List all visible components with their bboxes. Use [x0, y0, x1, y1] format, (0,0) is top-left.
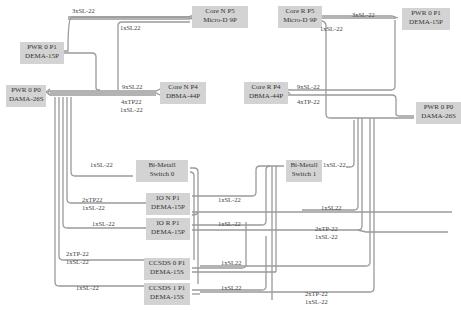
box-io-r-p1: IO R P1 DEMA-15P [146, 218, 190, 240]
wire-label: 9xSL22 [122, 83, 143, 91]
box-title: PWR 0 P0 [9, 86, 43, 95]
wire-bim1-verticals [272, 166, 276, 300]
wire-label: 1xSL22 [221, 259, 242, 267]
wire-label: 3xSL-22 [72, 7, 95, 15]
box-connector: DEMA-15P [149, 203, 187, 212]
wire-label: 1xSL-22 [92, 220, 115, 228]
box-pwr0-p0-right: PWR 0 P0 DAMA-26S [416, 102, 461, 124]
wire-coren-p5-pwr0p0 [118, 22, 190, 90]
wire-label: 1xSL-22 [120, 106, 143, 114]
box-title: PWR 0 P1 [23, 43, 61, 52]
wire-bim1-pwr0p0r [346, 120, 354, 167]
box-connector: Switch 1 [289, 170, 319, 179]
wire-label: 2xTP-22 [66, 250, 89, 258]
box-connector: Micro-D 9P [281, 16, 319, 25]
wire-label: 2xTP22 [82, 196, 103, 204]
wire-label: 2xTP-22 [315, 225, 338, 233]
box-pwr0-p1-left: PWR 0 P1 DEMA-15P [20, 42, 64, 64]
box-connector: DAMA-26S [419, 112, 458, 121]
box-title: IO R P1 [149, 219, 187, 228]
wire-label: 1xSL-22 [320, 25, 343, 33]
box-connector: DAMA-26S [9, 95, 43, 104]
wire-label: 1xSL22 [221, 284, 242, 292]
box-title: Core N P5 [195, 7, 245, 16]
wire-ionp1-right [192, 166, 284, 196]
box-bimetall-switch-0: Bi-Metall Switch 0 [136, 160, 188, 182]
box-connector: Switch 0 [139, 170, 185, 179]
box-ccsds1-p1: CCSDS 1 P1 DEMA-15S [144, 283, 190, 305]
box-connector: DEMA-15S [147, 268, 187, 277]
wire-label: 2xTP-22 [305, 290, 328, 298]
box-io-n-p1: IO N P1 DEMA-15P [146, 193, 190, 215]
box-connector: DBMA-44P [163, 92, 203, 101]
box-core-n-p4: Core N P4 DBMA-44P [160, 82, 206, 104]
wire-label: 1xSL-22 [218, 196, 241, 204]
wire-corer-p5-pwr0p0 [322, 21, 414, 118]
bundle-right-3 [200, 118, 370, 266]
wire-label: 1xSL-22 [323, 161, 346, 169]
box-connector: Micro-D 9P [195, 16, 245, 25]
wire-label: 1xSL-22 [315, 233, 338, 241]
box-core-r-p4: Core R P4 DBMA-44P [244, 82, 288, 104]
box-bimetall-switch-1: Bi-Metall Switch 1 [286, 160, 322, 182]
box-connector: DEMA-15P [149, 228, 187, 237]
wire-label: 1xSL-22 [76, 284, 99, 292]
box-title: PWR 0 P1 [405, 9, 447, 18]
wire-label: 1xSL-22 [82, 204, 105, 212]
box-connector: DEMA-15S [147, 293, 187, 302]
wire-label: 1xSL-22 [90, 161, 113, 169]
box-connector: DEMA-15P [405, 18, 447, 27]
wire-label: 1xSL22 [120, 24, 141, 32]
box-title: Core R P4 [247, 83, 285, 92]
box-title: PWR 0 P0 [419, 103, 458, 112]
wire-label: 1xSL-22 [218, 220, 241, 228]
wire-pwr0p1-corenp4 [64, 53, 100, 90]
box-connector: DBMA-44P [247, 92, 285, 101]
wire-label: 9xSL-22 [297, 83, 320, 91]
wire-label: 3xSL-22 [352, 11, 375, 19]
box-title: CCSDS 0 P1 [147, 259, 187, 268]
box-title: Bi-Metall [289, 161, 319, 170]
wire-label: 4xTP22 [121, 98, 142, 106]
wire-label: 1xSL22 [321, 204, 342, 212]
box-ccsds0-p1: CCSDS 0 P1 DEMA-15S [144, 258, 190, 280]
box-core-n-p5: Core N P5 Micro-D 9P [192, 6, 248, 28]
box-title: CCSDS 1 P1 [147, 284, 187, 293]
box-title: Core R P5 [281, 7, 319, 16]
box-title: Core N P4 [163, 83, 203, 92]
box-title: IO N P1 [149, 194, 187, 203]
wire-label: 4xTP-22 [297, 98, 320, 106]
wire-label: 1xSL-22 [305, 298, 328, 306]
wire-label: 1xSL-22 [66, 258, 89, 266]
box-connector: DEMA-15P [23, 52, 61, 61]
box-core-r-p5: Core R P5 Micro-D 9P [278, 6, 322, 28]
box-title: Bi-Metall [139, 161, 185, 170]
box-pwr0-p1-right: PWR 0 P1 DEMA-15P [402, 8, 450, 30]
box-pwr0-p0-left: PWR 0 P0 DAMA-26S [6, 85, 46, 107]
